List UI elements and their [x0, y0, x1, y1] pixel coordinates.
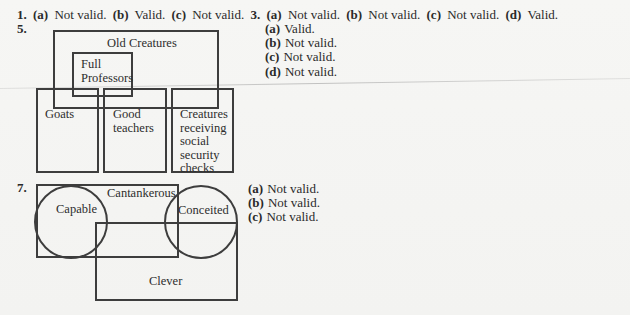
label-creatures-line4: security: [180, 149, 228, 163]
label-good-line1: Good: [113, 108, 154, 122]
problem-7b-label: (b): [248, 195, 264, 210]
label-creatures-line2: receiving: [180, 122, 228, 136]
problem-7c: (c)Not valid.: [248, 210, 320, 224]
problem-7b-answer: Not valid.: [268, 195, 320, 210]
label-good-teachers: Good teachers: [113, 108, 154, 135]
problem-5c: (c)Not valid.: [265, 50, 337, 64]
goats-box: [37, 89, 98, 172]
problem-5c-answer: Not valid.: [283, 49, 335, 64]
label-full-line2: Professors: [81, 72, 133, 86]
problem-5c-label: (c): [265, 49, 279, 64]
problem-7c-answer: Not valid.: [266, 209, 318, 224]
label-creatures-receiving: Creatures receiving social security chec…: [180, 108, 228, 176]
problem-7b: (b)Not valid.: [248, 196, 320, 210]
problem-5-answers: (a)Valid. (b)Not valid. (c)Not valid. (d…: [265, 22, 337, 79]
problem-7-answers: (a)Not valid. (b)Not valid. (c)Not valid…: [248, 182, 320, 225]
label-cantankerous: Cantankerous: [107, 187, 176, 201]
problem-7c-label: (c): [248, 209, 262, 224]
problem-5a: (a)Valid.: [265, 22, 337, 36]
problem-5b-answer: Not valid.: [285, 35, 337, 50]
label-full-line1: Full: [81, 58, 133, 72]
problem-5d: (d)Not valid.: [265, 65, 337, 79]
label-creatures-line3: social: [180, 135, 228, 149]
problem-7a: (a)Not valid.: [248, 182, 320, 196]
problem-5a-answer: Valid.: [284, 21, 315, 36]
problem-5a-label: (a): [265, 21, 280, 36]
label-goats: Goats: [45, 108, 74, 122]
answer-key-page: 1. (a) Not valid. (b) Valid. (c) Not val…: [0, 0, 630, 315]
label-conceited: Conceited: [178, 204, 229, 218]
problem-7a-answer: Not valid.: [267, 181, 319, 196]
label-clever: Clever: [149, 275, 182, 289]
label-creatures-line5: checks: [180, 162, 228, 176]
label-full-professors: Full Professors: [81, 58, 133, 85]
label-capable: Capable: [56, 203, 97, 217]
problem-5d-answer: Not valid.: [285, 64, 337, 79]
label-old-creatures: Old Creatures: [107, 37, 177, 51]
problem-5d-label: (d): [265, 64, 281, 79]
problem-5b-label: (b): [265, 35, 281, 50]
label-creatures-line1: Creatures: [180, 108, 228, 122]
problem-5b: (b)Not valid.: [265, 36, 337, 50]
problem-7a-label: (a): [248, 181, 263, 196]
label-good-line2: teachers: [113, 122, 154, 136]
